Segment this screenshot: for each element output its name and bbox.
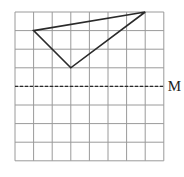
reflection-grid-diagram: M: [0, 0, 184, 177]
mirror-line-label: M: [168, 78, 181, 94]
